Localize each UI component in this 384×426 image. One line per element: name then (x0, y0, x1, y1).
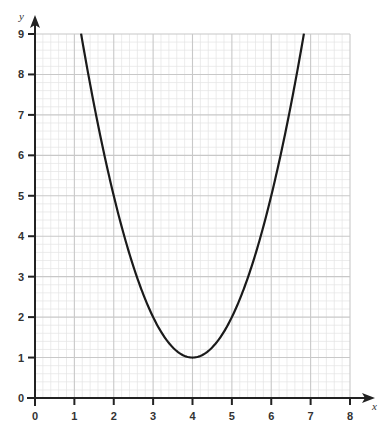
x-tick-label: 5 (229, 410, 235, 422)
y-tick-label: 4 (18, 230, 25, 242)
x-tick-marks: 012345678 (32, 398, 353, 422)
x-tick-label: 0 (32, 410, 38, 422)
x-axis-label: x (371, 400, 377, 412)
x-tick-label: 3 (150, 410, 156, 422)
x-tick-label: 4 (189, 410, 196, 422)
y-tick-label: 8 (18, 68, 24, 80)
y-tick-label: 2 (18, 311, 24, 323)
x-tick-label: 1 (71, 410, 77, 422)
x-tick-label: 8 (347, 410, 353, 422)
y-tick-label: 3 (18, 271, 24, 283)
x-tick-label: 7 (308, 410, 314, 422)
x-tick-label: 6 (268, 410, 274, 422)
y-tick-label: 0 (18, 392, 24, 404)
axes (27, 15, 375, 406)
y-tick-label: 7 (18, 109, 24, 121)
x-tick-label: 2 (111, 410, 117, 422)
parabola-chart: 012345678 0123456789 x y (0, 0, 384, 426)
y-tick-marks: 0123456789 (18, 28, 35, 404)
y-tick-label: 9 (18, 28, 24, 40)
y-tick-label: 5 (18, 190, 24, 202)
y-axis-label: y (18, 10, 24, 22)
y-tick-label: 6 (18, 149, 24, 161)
y-tick-label: 1 (18, 352, 24, 364)
